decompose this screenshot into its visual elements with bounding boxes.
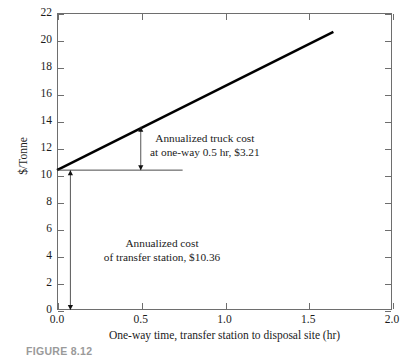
x-tick-mark [309, 14, 310, 20]
transfer-station-cost-annotation: Annualized cost of transfer station, $10… [62, 236, 262, 264]
y-tick-mark [385, 95, 391, 96]
truck-cost-annotation-line2: at one-way 0.5 hr, $3.21 [150, 145, 260, 159]
y-tick-mark [385, 176, 391, 177]
y-tick-label: 20 [41, 34, 53, 46]
x-axis-tick-labels: 0.00.51.01.52.0 [57, 314, 392, 330]
y-tick-mark [58, 122, 64, 123]
y-tick-mark [385, 41, 391, 42]
x-tick-mark [58, 303, 59, 309]
y-tick-label: 8 [46, 196, 52, 208]
y-tick-label: 18 [41, 61, 53, 73]
x-tick-label: 0.5 [134, 314, 148, 326]
x-tick-mark [393, 14, 394, 20]
y-tick-mark [58, 311, 64, 312]
y-tick-mark [385, 257, 391, 258]
y-tick-mark [58, 68, 64, 69]
x-tick-label: 0.0 [50, 314, 64, 326]
truck-cost-annotation: Annualized truck cost at one-way 0.5 hr,… [150, 131, 260, 159]
y-tick-label: 14 [41, 115, 53, 127]
y-tick-mark [58, 149, 64, 150]
y-tick-label: 4 [46, 250, 52, 262]
y-tick-mark [385, 14, 391, 15]
y-tick-mark [385, 284, 391, 285]
y-tick-mark [385, 122, 391, 123]
transfer-station-annotation-line1: Annualized cost [62, 236, 262, 250]
y-tick-label: 6 [46, 223, 52, 235]
y-tick-mark [385, 203, 391, 204]
y-tick-label: 22 [41, 7, 53, 19]
y-tick-label: 2 [46, 277, 52, 289]
y-tick-label: 12 [41, 142, 53, 154]
y-tick-mark [385, 68, 391, 69]
x-tick-mark [226, 14, 227, 20]
y-tick-label: 10 [41, 169, 53, 181]
x-tick-mark [58, 14, 59, 20]
y-tick-mark [58, 95, 64, 96]
y-tick-mark [385, 149, 391, 150]
x-tick-mark [226, 303, 227, 309]
plot-area [57, 13, 392, 310]
y-tick-mark [58, 284, 64, 285]
x-tick-label: 1.5 [301, 314, 315, 326]
y-tick-mark [58, 176, 64, 177]
x-tick-mark [142, 303, 143, 309]
x-tick-label: 1.0 [217, 314, 231, 326]
y-tick-mark [385, 230, 391, 231]
figure-caption: FIGURE 8.12 [26, 345, 92, 357]
y-tick-mark [58, 203, 64, 204]
y-axis-title: $/Tonne [17, 111, 29, 201]
y-tick-mark [385, 311, 391, 312]
x-tick-mark [393, 303, 394, 309]
x-tick-label: 2.0 [385, 314, 399, 326]
truck-cost-annotation-line1: Annualized truck cost [150, 131, 260, 145]
y-tick-label: 16 [41, 88, 53, 100]
y-tick-mark [58, 230, 64, 231]
x-axis-title: One-way time, transfer station to dispos… [57, 329, 392, 341]
x-tick-mark [309, 303, 310, 309]
transfer-station-annotation-line2: of transfer station, $10.36 [62, 250, 262, 264]
y-tick-mark [58, 41, 64, 42]
x-tick-mark [142, 14, 143, 20]
